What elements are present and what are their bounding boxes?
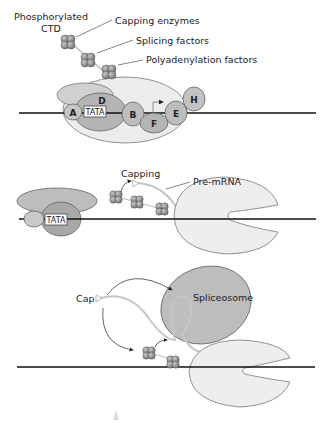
capping-arrow xyxy=(121,181,131,192)
ctd-label-line1: Phosphorylated xyxy=(14,11,88,22)
capping-enzyme-cluster xyxy=(110,191,122,203)
spliceosome-label: Spliceosome xyxy=(193,292,253,303)
panel-3-splicing: Cap Spliceosome xyxy=(17,254,315,407)
cap-label: Cap xyxy=(76,293,95,304)
cap-to-factors-arrow xyxy=(103,308,133,350)
ctd-label-line2: CTD xyxy=(41,23,61,34)
polyadenylation-factors-label: Polyadenylation factors xyxy=(146,54,257,65)
cap-triangle xyxy=(96,295,102,302)
factor-a-label: A xyxy=(70,108,77,118)
splicing-factors-label: Splicing factors xyxy=(136,35,209,46)
panel-2-capping: TATA Capping Pre-mRNA xyxy=(17,168,316,254)
tata-label: TATA xyxy=(85,108,105,117)
factor-d-label: D xyxy=(98,96,105,106)
pre-mrna-label: Pre-mRNA xyxy=(193,176,241,187)
panel-1-preinitiation-complex: A TATA D B F E H Phosphorylated CTD Capp… xyxy=(14,11,316,143)
scan-artifact xyxy=(113,410,119,420)
tata-label: TATA xyxy=(46,216,66,225)
transcription-diagram: A TATA D B F E H Phosphorylated CTD Capp… xyxy=(0,0,331,427)
factor-f-label: F xyxy=(151,119,157,129)
splicing-factor-cluster xyxy=(143,347,155,359)
cap-triangle xyxy=(132,180,139,187)
splicing-factor-cluster xyxy=(81,53,95,67)
splicing-leader xyxy=(97,40,133,53)
factor-h-label: H xyxy=(190,95,198,105)
factor-b-label: B xyxy=(130,110,137,120)
capping-leader xyxy=(76,20,112,37)
capping-enzyme-cluster xyxy=(61,35,75,49)
factor-e-label: E xyxy=(173,109,179,119)
splicing-arrow xyxy=(155,340,167,347)
rna-polymerase-elongating xyxy=(189,340,290,407)
polyadenylation-factor-cluster xyxy=(102,65,116,79)
splicing-factor-cluster xyxy=(131,196,143,208)
polyadenylation-factor-cluster xyxy=(167,356,179,368)
factor-a-small xyxy=(24,211,44,227)
capping-enzymes-label: Capping enzymes xyxy=(115,15,200,26)
rna-polymerase-elongating xyxy=(174,177,278,254)
cap-to-spliceosome-arrow xyxy=(107,279,172,295)
capping-label: Capping xyxy=(121,168,160,179)
polyadenylation-leader xyxy=(118,60,143,65)
polyadenylation-factor-cluster xyxy=(156,203,168,215)
